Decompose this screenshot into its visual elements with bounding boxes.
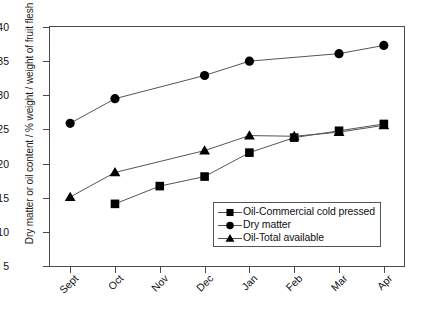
x-axis-tick-mark [115,267,116,273]
data-point-circle [334,49,343,58]
legend-marker-circle-icon [217,218,243,231]
x-axis-tick-label: Dec [178,272,215,309]
y-axis-tick-label: 15 [0,192,9,204]
x-axis-tick-mark [339,267,340,273]
legend-marker-triangle-icon [217,231,243,244]
x-axis-tick-label: Oct [89,272,126,309]
x-axis-tick-mark [70,267,71,273]
x-axis-tick-label: Sept [44,272,81,309]
y-axis-tick-label: 35 [0,55,9,67]
legend-label: Oil-Commercial cold pressed [243,205,375,218]
x-axis-tick-mark [205,267,206,273]
y-axis-title: Dry matter or oil content / % weight / w… [24,0,35,249]
data-point-triangle [244,130,255,139]
legend-item: Oil-Total available [217,231,375,244]
chart-figure: Dry matter or oil content / % weight / w… [0,0,423,325]
data-point-square [111,200,120,209]
x-axis-tick-mark [249,267,250,273]
y-axis-tick-label: 5 [0,260,9,272]
data-point-square [200,172,209,181]
legend-label: Oil-Total available [243,231,324,244]
x-axis-tick-label: Mar [313,272,350,309]
data-point-circle [110,94,119,103]
y-axis-tick-label: 25 [0,123,9,135]
legend-item: Dry matter [217,218,375,231]
data-point-square [155,182,164,191]
legend-marker-square-icon [217,205,243,218]
data-point-square [245,148,254,157]
legend-label: Dry matter [243,218,291,231]
x-axis-tick-label: Feb [268,272,305,309]
data-point-circle [66,119,75,128]
data-point-circle [245,57,254,66]
x-axis-tick-mark [294,267,295,273]
y-axis-tick-label: 40 [0,21,9,33]
data-point-triangle [65,192,76,201]
data-point-circle [200,71,209,80]
legend-item: Oil-Commercial cold pressed [217,205,375,218]
y-axis-tick-label: 20 [0,158,9,170]
x-axis-tick-label: Apr [358,272,395,309]
x-axis-tick-mark [160,267,161,273]
chart-legend: Oil-Commercial cold pressedDry matterOil… [213,202,381,247]
series-triangle [65,120,389,201]
x-axis-tick-label: Nov [133,272,170,309]
x-axis-tick-mark [384,267,385,273]
series-line [70,125,384,197]
series-circle [66,41,389,128]
data-point-circle [379,41,388,50]
y-axis-tick-label: 10 [0,226,9,238]
y-axis-tick-label: 30 [0,89,9,101]
x-axis-tick-label: Jan [223,272,260,309]
